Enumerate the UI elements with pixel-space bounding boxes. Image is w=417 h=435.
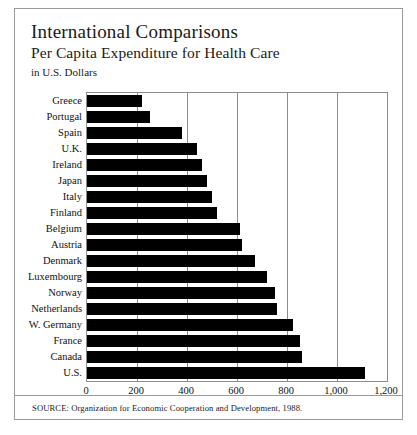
bar-row: Denmark (87, 253, 387, 269)
bar (87, 207, 217, 219)
bar-category-label: Luxembourg (0, 269, 82, 285)
bar (87, 303, 277, 315)
bar-row: Norway (87, 285, 387, 301)
bar-row: Italy (87, 189, 387, 205)
bar (87, 255, 255, 267)
bar-category-label: Netherlands (0, 301, 82, 317)
bar (87, 223, 240, 235)
bar (87, 111, 150, 123)
bar (87, 239, 242, 251)
bar-row: Japan (87, 173, 387, 189)
chart-header: International Comparisons Per Capita Exp… (15, 9, 402, 80)
bar-row: Austria (87, 237, 387, 253)
page-title: International Comparisons (31, 21, 402, 43)
bar-category-label: Japan (0, 173, 82, 189)
bar (87, 191, 212, 203)
bar-category-label: U.S. (0, 365, 82, 381)
bar-row: Luxembourg (87, 269, 387, 285)
bar-category-label: Spain (0, 125, 82, 141)
bar-row: Belgium (87, 221, 387, 237)
bar-category-label: Denmark (0, 253, 82, 269)
chart-bars: GreecePortugalSpainU.K.IrelandJapanItaly… (87, 93, 387, 381)
bar-row: Ireland (87, 157, 387, 173)
bar-row: Portugal (87, 109, 387, 125)
source-note: SOURCE: Organization for Economic Cooper… (32, 402, 302, 414)
bar (87, 351, 302, 363)
bar (87, 367, 365, 379)
bar-category-label: Portugal (0, 109, 82, 125)
bar-category-label: France (0, 333, 82, 349)
bar-category-label: Ireland (0, 157, 82, 173)
bar (87, 335, 300, 347)
bar-category-label: Belgium (0, 221, 82, 237)
source-divider (15, 395, 402, 396)
figure-panel: International Comparisons Per Capita Exp… (14, 8, 403, 420)
bar (87, 127, 182, 139)
bar-row: U.S. (87, 365, 387, 381)
bar-row: Greece (87, 93, 387, 109)
bar-row: Canada (87, 349, 387, 365)
bar-category-label: Canada (0, 349, 82, 365)
bar-row: U.K. (87, 141, 387, 157)
bar-row: France (87, 333, 387, 349)
bar-category-label: Greece (0, 93, 82, 109)
bar-row: Spain (87, 125, 387, 141)
chart-subtitle: Per Capita Expenditure for Health Care (31, 43, 402, 62)
bar-category-label: Finland (0, 205, 82, 221)
bar (87, 287, 275, 299)
chart-plot-area: GreecePortugalSpainU.K.IrelandJapanItaly… (86, 92, 388, 382)
bar (87, 175, 207, 187)
bar-category-label: Norway (0, 285, 82, 301)
bar (87, 95, 142, 107)
bar-category-label: W. Germany (0, 317, 82, 333)
bar-category-label: Italy (0, 189, 82, 205)
bar-row: Netherlands (87, 301, 387, 317)
bar (87, 271, 267, 283)
bar (87, 319, 293, 331)
bar-row: Finland (87, 205, 387, 221)
chart-units-label: in U.S. Dollars (31, 64, 402, 80)
bar (87, 143, 197, 155)
chart-plot-wrapper: GreecePortugalSpainU.K.IrelandJapanItaly… (15, 92, 402, 392)
bar-category-label: Austria (0, 237, 82, 253)
bar-row: W. Germany (87, 317, 387, 333)
bar-category-label: U.K. (0, 141, 82, 157)
bar (87, 159, 202, 171)
